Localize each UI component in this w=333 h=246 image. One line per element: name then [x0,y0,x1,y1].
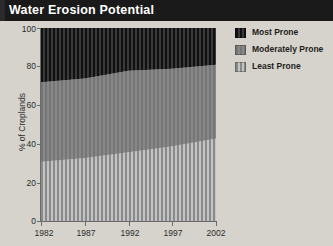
legend-swatch-most-prone-icon [235,28,246,38]
y-tick-40: 40 [12,140,36,148]
y-tick-100: 100 [12,25,36,33]
chart-legend: Most Prone Moderately Prone Least Prone [235,26,331,77]
page-title: Water Erosion Potential [9,3,154,17]
legend-label-most-prone: Most Prone [252,27,298,37]
title-bar: Water Erosion Potential [0,0,333,21]
title-bar-accent [0,0,5,21]
chart-screenshot: Water Erosion Potential % of Croplands 1… [0,0,333,246]
x-tick-1987: 1987 [77,228,96,238]
x-tickmark-1992 [129,222,130,226]
x-tickmark-1997 [172,222,173,226]
x-tickmark-1987 [85,222,86,226]
y-axis-line [40,28,41,222]
legend-swatch-moderately-prone-icon [235,45,246,55]
x-tick-1997: 1997 [164,228,183,238]
legend-item-moderately-prone: Moderately Prone [235,43,331,58]
plot-area [41,28,216,222]
x-tickmark-2002 [216,222,217,226]
chart-container: % of Croplands 100 80 60 40 20 0 [0,21,333,246]
legend-label-moderately-prone: Moderately Prone [252,44,323,54]
x-tickmark-1982 [41,222,42,226]
y-tick-80: 80 [12,62,36,70]
legend-item-most-prone: Most Prone [235,26,331,41]
legend-label-least-prone: Least Prone [252,61,301,71]
x-tick-1982: 1982 [35,228,54,238]
x-tick-1992: 1992 [121,228,140,238]
y-axis-ticks: 100 80 60 40 20 0 [10,21,36,246]
y-tick-60: 60 [12,101,36,109]
y-tick-0: 0 [12,217,36,225]
y-tick-20: 20 [12,179,36,187]
legend-item-least-prone: Least Prone [235,60,331,75]
legend-swatch-least-prone-icon [235,62,246,72]
stacked-area-plot [41,28,216,222]
x-tick-2002: 2002 [207,228,226,238]
